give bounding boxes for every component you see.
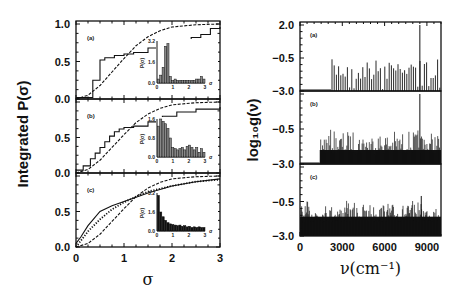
integrated-distribution-chart: 1.00.50.0(a)0.01.63.20123σP(σ)0.50.0(b)0…	[14, 18, 223, 289]
inset-y-label: P(σ)	[139, 134, 145, 144]
panel-a: 2.0−0.5−3.0(a)	[272, 19, 441, 97]
y-tick-label: 2.0	[279, 19, 294, 31]
x-tick-label: 0	[73, 252, 79, 264]
y-axis-label: log₁₀g(ν)	[244, 99, 261, 162]
panel-c: −0.5−3.0(c)	[272, 164, 441, 242]
inset-y-tick: 0.0	[148, 228, 155, 234]
inset-y-tick: 0.8	[148, 135, 155, 141]
x-axis-label: σ	[143, 270, 154, 289]
panel-c: 0.50.0(c)0.01.63.20123σP(σ)	[55, 173, 220, 253]
inset-x-tick: 2	[188, 84, 191, 90]
inset-x-tick: 2	[188, 232, 191, 238]
y-tick-label: 0.5	[55, 132, 70, 144]
inset-y-tick: 1.6	[148, 59, 155, 65]
inset-x-tick: 3	[204, 158, 207, 164]
panel-label: (c)	[87, 187, 94, 193]
inset-y-tick: 1.6	[148, 209, 155, 215]
spectrum-chart: 2.0−0.5−3.0(a)−0.5−3.0(b)−0.5−3.0(c)0300…	[244, 19, 441, 278]
panel-b: −0.5−3.0(b)	[272, 91, 441, 170]
panel-label: (c)	[310, 174, 317, 180]
y-tick-label: −3.0	[272, 158, 294, 170]
inset-y-label: P(σ)	[139, 58, 145, 68]
inset-histogram: 0.01.63.20123σP(σ)	[139, 38, 218, 93]
inset-x-tick: 0	[156, 158, 159, 164]
inset-y-tick: 3.2	[148, 190, 155, 196]
y-tick-label: −0.5	[272, 123, 294, 135]
inset-x-tick: 1	[172, 84, 175, 90]
y-tick-label: 0.0	[55, 167, 70, 179]
panel-label: (a)	[310, 32, 317, 38]
spectrum-lines	[332, 59, 440, 91]
y-tick-label: −3.0	[272, 85, 294, 97]
panel-label: (b)	[310, 101, 318, 107]
inset-x-label: σ	[209, 154, 213, 160]
inset-y-label: P(σ)	[139, 208, 145, 218]
inset-histogram: 0.01.63.20123σP(σ)	[139, 190, 218, 241]
panel-label: (b)	[87, 113, 95, 119]
inset-histogram: 0.00.81.60123σP(σ)	[139, 116, 218, 167]
x-tick-label: 6000	[372, 241, 396, 253]
x-axis-label: ν(cm⁻¹)	[340, 259, 401, 278]
x-tick-label: 2	[169, 252, 175, 264]
x-tick-label: 3	[217, 252, 223, 264]
y-tick-label: 0.0	[55, 241, 70, 253]
inset-x-label: σ	[209, 80, 213, 86]
panel-b: 0.50.0(b)0.00.81.60123σP(σ)	[55, 99, 220, 179]
panel-a: 1.00.50.0(a)0.01.63.20123σP(σ)	[55, 18, 220, 105]
inset-x-label: σ	[209, 228, 213, 234]
y-tick-label: 0.0	[55, 93, 70, 105]
inset-y-tick: 0.0	[148, 154, 155, 160]
y-tick-label: 0.5	[55, 206, 70, 218]
inset-x-tick: 0	[156, 232, 159, 238]
x-tick-label: 0	[297, 241, 303, 253]
y-tick-label: −3.0	[272, 230, 294, 242]
x-tick-label: 9000	[415, 241, 439, 253]
y-tick-label: −0.5	[272, 196, 294, 208]
inset-x-tick: 1	[172, 232, 175, 238]
inset-y-tick: 3.2	[148, 38, 155, 44]
inset-x-tick: 2	[188, 158, 191, 164]
y-tick-label: −0.5	[272, 52, 294, 64]
y-tick-label: 0.5	[55, 56, 70, 68]
spectrum-lines	[321, 130, 440, 164]
y-axis-label: Integrated P(σ)	[14, 81, 31, 188]
inset-x-tick: 1	[172, 158, 175, 164]
panel-label: (a)	[87, 35, 94, 41]
x-tick-label: 1	[121, 252, 127, 264]
figure: 1.00.50.0(a)0.01.63.20123σP(σ)0.50.0(b)0…	[0, 0, 456, 307]
inset-x-tick: 3	[204, 84, 207, 90]
inset-y-tick: 1.6	[148, 116, 155, 122]
inset-x-tick: 0	[156, 84, 159, 90]
inset-y-tick: 0.0	[148, 80, 155, 86]
y-tick-label: 1.0	[55, 18, 70, 30]
x-tick-label: 3000	[330, 241, 354, 253]
inset-x-tick: 3	[204, 232, 207, 238]
